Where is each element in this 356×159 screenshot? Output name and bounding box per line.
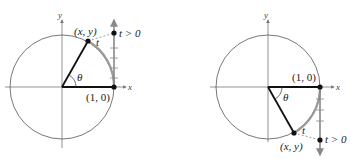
- point-t: [317, 137, 322, 142]
- radius-terminal: [268, 87, 294, 133]
- angle-label: θ: [283, 91, 289, 103]
- point-1-0: [111, 84, 116, 89]
- angle-label: θ: [77, 71, 83, 83]
- point-t: [111, 30, 116, 35]
- angle-arc: [69, 75, 76, 87]
- angle-arc: [275, 87, 282, 99]
- t-condition-label: t > 0: [119, 27, 141, 39]
- x-axis-label: x: [335, 82, 340, 92]
- origin-point-label: (1, 0): [86, 91, 110, 104]
- arc-label: t: [302, 124, 306, 136]
- radius-terminal: [62, 41, 88, 87]
- y-axis-label: y: [263, 10, 268, 20]
- unit-circle-figure: y x (x, y) t t > 0 θ (1, 0) y x (x, y) t…: [0, 0, 356, 159]
- wrap-dashed-line: [294, 133, 320, 140]
- arc-label: t: [96, 36, 100, 48]
- origin-point-label: (1, 0): [292, 71, 316, 84]
- left-panel: y x (x, y) t t > 0 θ (1, 0): [5, 10, 141, 148]
- x-axis-label: x: [127, 82, 132, 92]
- point-1-0: [317, 84, 322, 89]
- point-xy: [85, 38, 90, 43]
- right-panel: y x (x, y) t t > 0 θ (1, 0): [210, 10, 347, 155]
- point-xy: [291, 130, 296, 135]
- point-xy-label: (x, y): [74, 25, 97, 38]
- t-condition-label: t > 0: [325, 133, 347, 145]
- y-axis-label: y: [57, 10, 62, 20]
- point-xy-label: (x, y): [280, 140, 303, 153]
